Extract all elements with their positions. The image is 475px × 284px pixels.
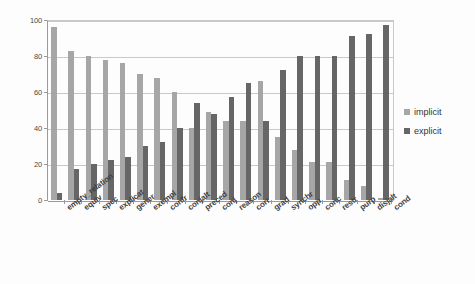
bar-explicit-purp (349, 36, 355, 200)
bar-explicit-restr (332, 56, 338, 200)
bar-implicit-empty_relation (51, 27, 57, 200)
x-axis-label-conjalt: conjalt (186, 205, 191, 212)
bar-group (340, 20, 357, 200)
x-axis-label-opp: opp (306, 205, 311, 212)
bar-group (220, 20, 237, 200)
chart-legend: implicitexplicit (404, 107, 472, 145)
x-axis-label-grad: grad (272, 205, 277, 212)
x-axis-label-synchr: synchr (289, 205, 294, 212)
legend-label-explicit: explicit (414, 126, 442, 136)
y-tick-mark (44, 56, 47, 57)
bar-explicit-reason (229, 97, 235, 200)
y-tick-label: 100 (2, 16, 42, 25)
bar-explicit-conj (211, 114, 217, 200)
legend-item-implicit: implicit (404, 107, 472, 117)
y-tick-mark (44, 128, 47, 129)
x-axis-label-conj: conj (220, 205, 225, 212)
x-axis-label-empty_relation: empty_relation (65, 205, 70, 212)
bar-group (375, 20, 392, 200)
bar-group (289, 20, 306, 200)
y-tick-label: 60 (2, 88, 42, 97)
x-axis-label-confr: confr (168, 205, 173, 212)
legend-label-implicit: implicit (414, 107, 442, 117)
x-axis-labels: empty_relationequivspecexplicatgenerexem… (48, 205, 392, 283)
x-axis-label-corr: corr (254, 205, 259, 212)
bar-explicit-confr (160, 142, 166, 200)
bar-explicit-empty_relation (57, 193, 63, 200)
y-tick-mark (44, 92, 47, 93)
bar-explicit-corr (246, 83, 252, 200)
bar-group (358, 20, 375, 200)
legend-item-explicit: explicit (404, 126, 472, 136)
bar-group (134, 20, 151, 200)
bar-group (151, 20, 168, 200)
bar-group (203, 20, 220, 200)
bar-explicit-synchr (280, 70, 286, 200)
bar-group (254, 20, 271, 200)
bar-explicit-opp (297, 56, 303, 200)
x-axis-label-preced: preced (203, 205, 208, 212)
y-tick-label: 0 (2, 196, 42, 205)
x-axis-label-cond: cond (392, 205, 397, 212)
y-tick-label: 20 (2, 160, 42, 169)
x-axis-label-disjalt: disjalt (375, 205, 380, 212)
bar-explicit-preced (194, 103, 200, 200)
y-tick-mark (44, 200, 47, 201)
bar-group (237, 20, 254, 200)
x-axis-label-equiv: equiv (82, 205, 87, 212)
bar-explicit-conc (315, 56, 321, 200)
bar-group (65, 20, 82, 200)
y-tick-mark (44, 164, 47, 165)
x-axis-label-reason: reason (237, 205, 242, 212)
x-axis-label-exempl: exempl (151, 205, 156, 212)
bar-explicit-disjalt (366, 34, 372, 200)
x-axis-label-explicat: explicat (117, 205, 122, 212)
bar-group (306, 20, 323, 200)
x-axis-label-restr: restr (340, 205, 345, 212)
chart-figure: 020406080100 empty_relationequivspecexpl… (0, 0, 475, 284)
bar-group (48, 20, 65, 200)
x-axis-label-gener: gener (134, 205, 139, 212)
y-tick-label: 80 (2, 52, 42, 61)
bar-group (186, 20, 203, 200)
bar-explicit-grad (263, 121, 269, 200)
y-tick-label: 40 (2, 124, 42, 133)
bar-explicit-cond (383, 25, 389, 200)
bar-explicit-conjalt (177, 128, 183, 200)
bar-group (117, 20, 134, 200)
bar-group (82, 20, 99, 200)
x-axis-label-conc: conc (323, 205, 328, 212)
legend-swatch-explicit (404, 128, 410, 134)
bars-layer (48, 20, 392, 200)
y-tick-mark (44, 20, 47, 21)
y-axis: 020406080100 (0, 20, 42, 200)
legend-swatch-implicit (404, 109, 410, 115)
x-tick-mark (48, 200, 65, 204)
x-axis-label-purp: purp (358, 205, 363, 212)
bar-group (272, 20, 289, 200)
bar-group (168, 20, 185, 200)
bar-group (323, 20, 340, 200)
x-axis-label-spec: spec (100, 205, 105, 212)
